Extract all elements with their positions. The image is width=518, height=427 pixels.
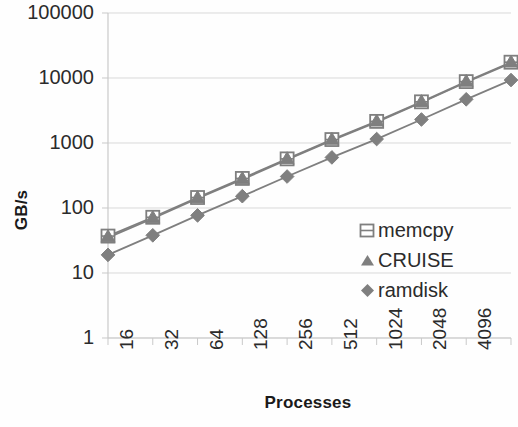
x-axis-title-wrap: Processes xyxy=(108,393,508,413)
x-tick-label-32: 32 xyxy=(162,329,181,350)
x-tick-label-128: 128 xyxy=(251,318,270,350)
legend-label-memcpy: memcpy xyxy=(378,220,454,240)
chart-legend: memcpyCRUISEramdisk xyxy=(358,216,454,304)
x-tick-label-256: 256 xyxy=(296,318,315,350)
chart-figure: 100000100001000100101 163264128256512102… xyxy=(0,0,518,427)
legend-label-ramdisk: ramdisk xyxy=(378,280,448,300)
legend-label-cruise: CRUISE xyxy=(378,250,454,270)
x-tick-label-64: 64 xyxy=(207,329,226,350)
x-tick-label-512: 512 xyxy=(341,318,360,350)
x-tick-label-2048: 2048 xyxy=(430,308,449,350)
x-tick-label-1024: 1024 xyxy=(386,308,405,350)
x-tick-label-16: 16 xyxy=(117,329,136,350)
triangle-icon xyxy=(358,251,377,270)
x-axis-tick-labels: 1632641282565121024204840968192 xyxy=(0,0,518,427)
diamond-icon xyxy=(358,281,377,300)
legend-item-cruise: CRUISE xyxy=(358,246,454,274)
legend-item-ramdisk: ramdisk xyxy=(358,276,454,304)
x-tick-label-4096: 4096 xyxy=(475,308,494,350)
square-open-icon xyxy=(358,221,377,240)
y-axis-title-wrap: GB/s xyxy=(2,150,42,270)
legend-item-memcpy: memcpy xyxy=(358,216,454,244)
y-axis-title: GB/s xyxy=(12,190,32,230)
x-axis-title: Processes xyxy=(265,393,352,412)
